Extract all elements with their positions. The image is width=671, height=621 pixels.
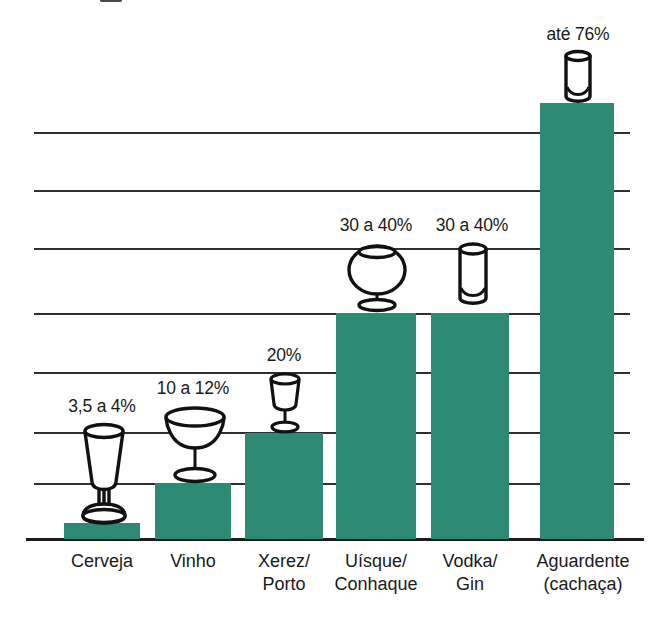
shot-glass-icon [451,240,495,314]
x-axis-label-line2: Gin [411,573,529,596]
bar-vodka-gin[interactable] [431,313,509,539]
bar-vinho[interactable] [155,483,231,539]
bar-uisque-conhaque[interactable] [336,313,416,539]
wine-coupe-glass-icon [158,404,232,486]
x-axis-label-aguardente: Aguardente (cachaça) [513,550,653,596]
x-axis-label-line1: Vodka/ [411,550,529,573]
value-label-cerveja: 3,5 a 4% [38,396,166,417]
x-axis-label-vodka-gin: Vodka/ Gin [411,550,529,596]
brandy-snifter-glass-icon [341,240,413,314]
plot-area: 3,5 a 4% 10 a 12% 20% 30 a 40% 30 a 40% … [0,0,671,621]
bar-chart: 3,5 a 4% 10 a 12% 20% 30 a 40% 30 a 40% … [0,0,671,621]
shot-glass-icon [556,48,600,110]
value-label-xerez-porto: 20% [222,345,346,366]
bar-xerez-porto[interactable] [245,433,323,539]
value-label-aguardente: até 76% [514,24,642,45]
beer-pilsner-glass-icon [69,420,139,526]
x-axis-label-line2: (cachaça) [513,573,653,596]
value-label-vodka-gin: 30 a 40% [408,215,536,236]
sherry-glass-icon [265,370,305,436]
value-label-vinho: 10 a 12% [129,378,257,399]
bar-aguardente[interactable] [540,103,614,539]
x-axis-label-line1: Aguardente [513,550,653,573]
